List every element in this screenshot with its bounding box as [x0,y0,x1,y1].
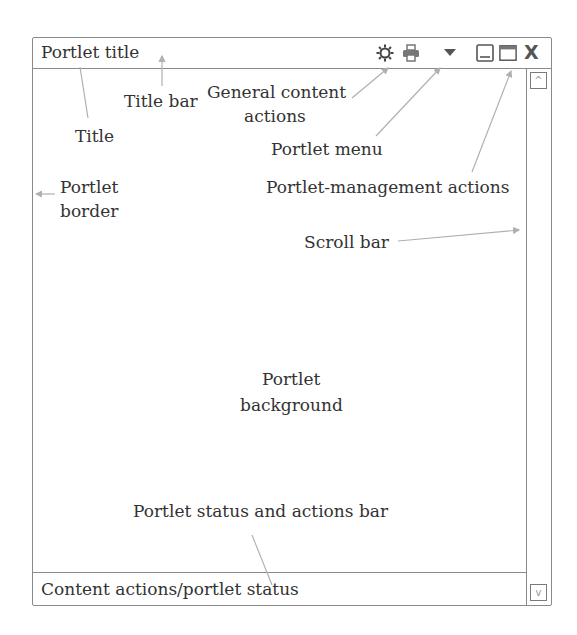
scroll-bar[interactable]: ^ v [526,68,551,605]
scroll-down-button[interactable]: v [530,584,547,601]
maximize-icon[interactable] [499,44,517,62]
close-icon[interactable]: X [524,41,539,63]
label-portlet-border-2: border [60,200,118,222]
title-bar: Portlet title X [33,38,551,69]
label-scroll-bar: Scroll bar [304,231,389,253]
label-portlet-border: Portlet [60,176,118,198]
label-portlet-menu: Portlet menu [271,138,383,160]
gear-icon[interactable] [376,44,394,62]
label-title-bar: Title bar [124,90,198,112]
label-status-and-actions-bar: Portlet status and actions bar [133,500,388,522]
minimize-icon[interactable] [476,44,494,62]
portlet-title: Portlet title [41,42,139,62]
status-text: Content actions/portlet status [41,579,299,599]
label-portlet-background-2: background [240,394,343,416]
printer-icon[interactable] [402,44,420,62]
menu-dropdown-icon[interactable] [441,44,459,62]
status-bar: Content actions/portlet status [33,572,526,605]
label-portlet-management-actions: Portlet-management actions [266,176,510,198]
label-general-content-actions-2: actions [244,105,306,127]
label-title: Title [75,125,114,147]
label-general-content-actions: General content [207,81,346,103]
label-portlet-background: Portlet [262,368,320,390]
scroll-up-button[interactable]: ^ [530,72,547,89]
